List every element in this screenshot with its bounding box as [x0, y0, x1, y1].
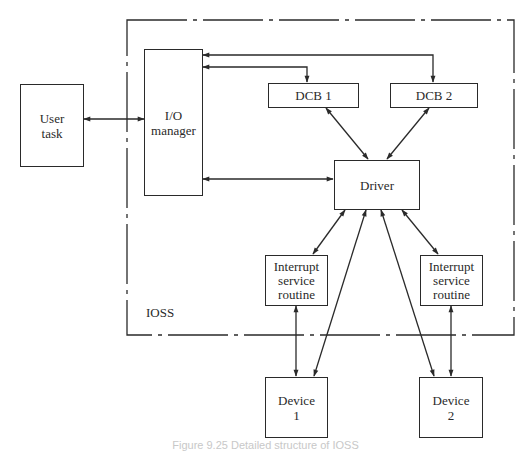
- edge-io-dcb2: [203, 55, 433, 82]
- node-dcb1: DCB 1: [268, 83, 359, 108]
- node-dcb2: DCB 2: [390, 83, 478, 108]
- ioss-boundary-label: IOSS: [146, 305, 174, 321]
- edge-driver-isr1: [313, 210, 345, 254]
- node-isr1: Interrupt service routine: [265, 255, 328, 306]
- edge-dcb2-driver: [387, 108, 429, 159]
- node-driver: Driver: [334, 160, 420, 210]
- node-isr2: Interrupt service routine: [420, 255, 483, 306]
- edge-dcb1-driver: [326, 108, 368, 159]
- node-device1: Device 1: [265, 377, 328, 438]
- node-io-manager: I/O manager: [144, 49, 203, 196]
- edge-io-dcb1: [203, 67, 307, 82]
- node-user-task: User task: [20, 84, 84, 167]
- edge-driver-isr2: [402, 210, 438, 254]
- figure-caption: Figure 9.25 Detailed structure of IOSS: [0, 439, 531, 451]
- node-device2: Device 2: [419, 377, 483, 438]
